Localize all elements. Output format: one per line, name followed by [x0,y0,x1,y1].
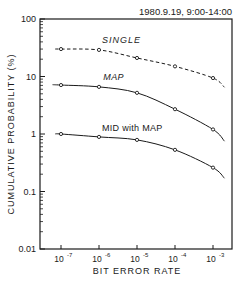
y-tick-label: 0.01 [18,244,36,254]
y-axis: 1001010.10.01 [18,14,45,254]
series-label: MID with MAP [102,123,163,133]
x-tick-label: 10 [168,254,178,264]
data-point-marker [211,76,214,79]
y-tick-label: 0.1 [23,187,36,197]
data-point-marker [135,91,138,94]
series-label: SINGLE [102,35,141,45]
x-tick-exponent: -6 [105,252,111,258]
x-tick-label: 10 [130,254,140,264]
data-point-marker [97,85,100,88]
data-point-marker [59,132,62,135]
y-tick-label: 10 [26,72,36,82]
x-tick-exponent: -3 [219,252,225,258]
data-point-marker [97,135,100,138]
x-tick-label: 10 [92,254,102,264]
data-point-marker [59,83,62,86]
data-point-marker [211,166,214,169]
data-point-marker [135,138,138,141]
series-label: MAP [103,72,123,82]
x-tick-label: 10 [54,254,64,264]
data-point-marker [59,47,62,50]
y-axis-label: CUMULATIVE PROBABILITY (%) [6,53,16,214]
y-tick-label: 100 [21,14,36,24]
data-point-marker [135,56,138,59]
series-line-mid-with-map [55,134,224,178]
x-tick-exponent: -7 [67,252,73,258]
y-tick-label: 1 [31,129,36,139]
plot-area: SINGLEMAPMID with MAP [53,35,225,178]
x-tick-label: 10 [206,254,216,264]
series-line-single [55,49,224,87]
data-point-marker [173,108,176,111]
x-axis-label: BIT ERROR RATE [93,266,182,276]
plot-frame [40,19,232,249]
chart-title: 1980.9.19, 9:00-14:00 [139,6,232,17]
data-point-marker [173,148,176,151]
chart-figure: 1980.9.19, 9:00-14:00 1001010.10.01 10-7… [0,0,242,287]
x-axis: 10-710-610-510-410-3 [54,245,225,264]
x-tick-exponent: -5 [143,252,149,258]
data-point-marker [173,65,176,68]
data-point-marker [97,48,100,51]
x-tick-exponent: -4 [181,252,187,258]
data-point-marker [211,128,214,131]
